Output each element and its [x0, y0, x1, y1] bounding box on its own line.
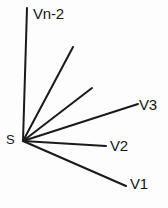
- label-vertex-s: S: [6, 133, 14, 146]
- ray-vn-2: [23, 8, 27, 141]
- label-vn-2: Vn-2: [33, 6, 64, 21]
- ray-v2: [23, 141, 106, 146]
- ray-unlabeled-3: [23, 88, 92, 141]
- label-v2: V2: [110, 138, 128, 153]
- label-v3: V3: [139, 97, 157, 112]
- label-v1: V1: [130, 176, 148, 191]
- figure-container: Vn-2 V3 V2 V1 S: [0, 0, 168, 208]
